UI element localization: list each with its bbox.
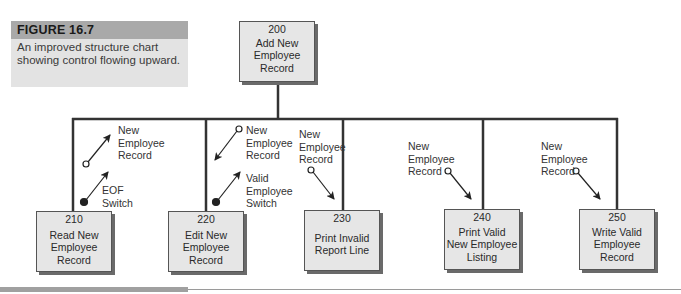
- module-label: Read New Employee Record: [37, 229, 111, 267]
- control-flag-icon: [213, 199, 220, 206]
- module-label: Print Invalid Report Line: [305, 232, 379, 257]
- module-200-box: 200 Add New Employee Record: [239, 21, 315, 82]
- module-number: 250: [580, 211, 654, 224]
- module-label: Write Valid Employee Record: [580, 226, 654, 264]
- module-number: 200: [240, 23, 314, 36]
- module-number: 230: [305, 212, 379, 225]
- couple-label: New Employee Record: [408, 140, 455, 178]
- couple-label: Valid Employee Switch: [246, 172, 293, 210]
- couple-label: New Employee Record: [246, 124, 293, 162]
- data-couple-icon: [308, 167, 314, 173]
- couple-label: New Employee Record: [118, 124, 165, 162]
- couple-label: New Employee Record: [541, 140, 588, 178]
- module-number: 210: [37, 213, 111, 226]
- module-label: Add New Employee Record: [240, 37, 314, 75]
- module-250-box: 250 Write Valid Employee Record: [579, 209, 655, 270]
- module-label: Edit New Employee Record: [169, 229, 243, 267]
- module-210-box: 210 Read New Employee Record: [36, 211, 112, 272]
- module-240-box: 240 Print Valid New Employee Listing: [444, 209, 520, 270]
- module-230-box: 230 Print Invalid Report Line: [304, 210, 380, 271]
- module-220-box: 220 Edit New Employee Record: [168, 211, 244, 272]
- couple-label: EOF Switch: [102, 184, 133, 209]
- couple-label: New Employee Record: [299, 128, 346, 166]
- bottom-rule-thin: [188, 289, 681, 290]
- module-number: 220: [169, 213, 243, 226]
- control-flag-icon: [81, 199, 88, 206]
- data-couple-icon: [83, 161, 89, 167]
- bottom-rule-thick: [0, 287, 188, 292]
- module-number: 240: [445, 211, 519, 224]
- module-label: Print Valid New Employee Listing: [445, 226, 519, 264]
- data-couple-icon: [236, 126, 242, 132]
